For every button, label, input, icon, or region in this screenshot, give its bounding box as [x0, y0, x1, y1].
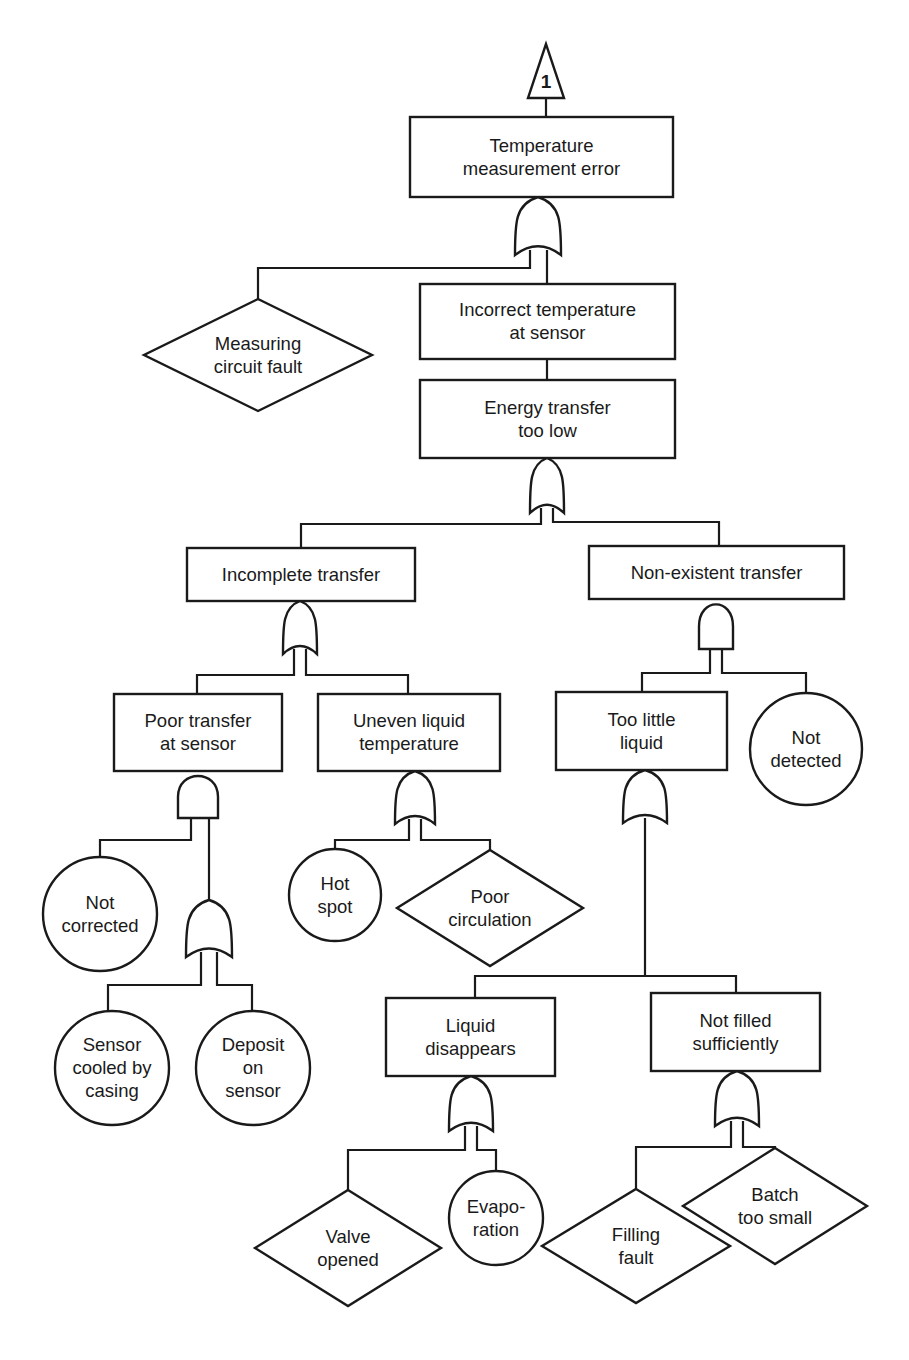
event-poor-circulation: Poorcirculation: [397, 850, 583, 966]
event-label-line: Not filled: [700, 1010, 772, 1031]
event-label-line: Deposit: [222, 1034, 285, 1055]
event-label-line: Incorrect temperature: [459, 299, 636, 320]
event-label-line: sensor: [225, 1080, 281, 1101]
event-not-detected: Notdetected: [750, 693, 862, 805]
connector-line: [100, 818, 191, 857]
event-incomplete-transfer: Incomplete transfer: [187, 548, 415, 601]
connector-line: [301, 508, 541, 548]
event-label-line: disappears: [425, 1038, 516, 1059]
event-label-line: Measuring: [215, 333, 301, 354]
event-label-line: at sensor: [160, 733, 236, 754]
event-poor-transfer-at-sensor: Poor transferat sensor: [114, 694, 282, 771]
connector-line: [197, 649, 294, 694]
event-label-line: Poor transfer: [145, 710, 252, 731]
event-energy-transfer-too-low: Energy transfertoo low: [420, 380, 675, 458]
connector-line: [477, 1126, 496, 1171]
event-label-line: Incomplete transfer: [222, 564, 380, 585]
or-gate-icon: [515, 197, 561, 255]
event-label-line: at sensor: [509, 322, 585, 343]
connector-line: [421, 819, 490, 850]
or-gate-icon: [186, 900, 232, 957]
or-gate-icon: [530, 458, 564, 513]
event-label-line: circuit fault: [214, 356, 302, 377]
event-non-existent-transfer: Non-existent transfer: [589, 546, 844, 599]
event-liquid-disappears: Liquiddisappears: [386, 998, 555, 1076]
event-label-line: Not: [792, 727, 821, 748]
event-label-line: casing: [85, 1080, 138, 1101]
connector-line: [636, 1121, 731, 1189]
event-label-line: measurement error: [463, 158, 620, 179]
event-label-line: too small: [738, 1207, 812, 1228]
and-gate-icon: [699, 604, 733, 649]
or-gate-icon: [715, 1071, 759, 1126]
event-label-line: liquid: [620, 732, 663, 753]
connector-line: [553, 508, 719, 546]
event-incorrect-temp-at-sensor: Incorrect temperatureat sensor: [420, 284, 675, 359]
connector-line: [722, 649, 806, 693]
event-hot-spot: Hotspot: [289, 849, 381, 941]
connector-line: [335, 819, 409, 849]
or-gate-icon: [623, 770, 667, 823]
event-label-line: Non-existent transfer: [631, 562, 803, 583]
event-label-line: on: [243, 1057, 264, 1078]
event-label-line: corrected: [61, 915, 138, 936]
event-label-line: Filling: [612, 1224, 660, 1245]
event-sensor-cooled-by-casing: Sensorcooled bycasing: [55, 1011, 169, 1125]
event-label-line: fault: [619, 1247, 654, 1268]
event-label-line: Liquid: [446, 1015, 495, 1036]
transfer-label: 1: [541, 71, 552, 92]
event-label-line: circulation: [448, 909, 531, 930]
fault-tree-diagram: Temperaturemeasurement errorMeasuringcir…: [0, 0, 909, 1360]
event-valve-opened: Valveopened: [255, 1190, 441, 1306]
event-label-line: Energy transfer: [484, 397, 610, 418]
or-gate-icon: [283, 601, 317, 654]
connector-line: [348, 1126, 465, 1190]
event-temp-measurement-error: Temperaturemeasurement error: [410, 117, 673, 197]
event-label-line: Not: [86, 892, 115, 913]
event-label-line: cooled by: [72, 1057, 152, 1078]
connector-line: [217, 952, 252, 1011]
event-not-corrected: Notcorrected: [43, 857, 157, 971]
event-label-line: temperature: [359, 733, 459, 754]
event-label-line: Temperature: [490, 135, 594, 156]
event-label-line: Evapo-: [467, 1196, 526, 1217]
event-label-line: Poor: [470, 886, 509, 907]
connector-line: [642, 649, 710, 692]
event-label-line: too low: [518, 420, 577, 441]
event-label-line: opened: [317, 1249, 379, 1270]
event-label-line: Valve: [326, 1226, 371, 1247]
event-not-filled-sufficiently: Not filledsufficiently: [651, 993, 820, 1071]
event-label-line: detected: [771, 750, 842, 771]
event-label-line: ration: [473, 1219, 519, 1240]
or-gate-icon: [395, 771, 435, 824]
event-label-line: Hot: [321, 873, 350, 894]
event-uneven-liquid-temp: Uneven liquidtemperature: [318, 694, 500, 771]
event-label-line: Too little: [608, 709, 676, 730]
or-gate-icon: [449, 1076, 493, 1131]
event-deposit-on-sensor: Depositonsensor: [196, 1011, 310, 1125]
event-evaporation: Evapo-ration: [449, 1171, 543, 1265]
event-label-line: Batch: [751, 1184, 798, 1205]
event-label-line: Sensor: [83, 1034, 142, 1055]
transfer-symbol: 1: [528, 44, 564, 98]
event-label-line: Uneven liquid: [353, 710, 465, 731]
event-label-line: sufficiently: [692, 1033, 779, 1054]
connector-line: [306, 649, 408, 694]
event-label-line: spot: [318, 896, 353, 917]
connector-line: [645, 976, 736, 993]
and-gate-icon: [178, 776, 218, 818]
event-too-little-liquid: Too littleliquid: [556, 692, 727, 770]
event-measuring-circuit-fault: Measuringcircuit fault: [144, 299, 372, 411]
